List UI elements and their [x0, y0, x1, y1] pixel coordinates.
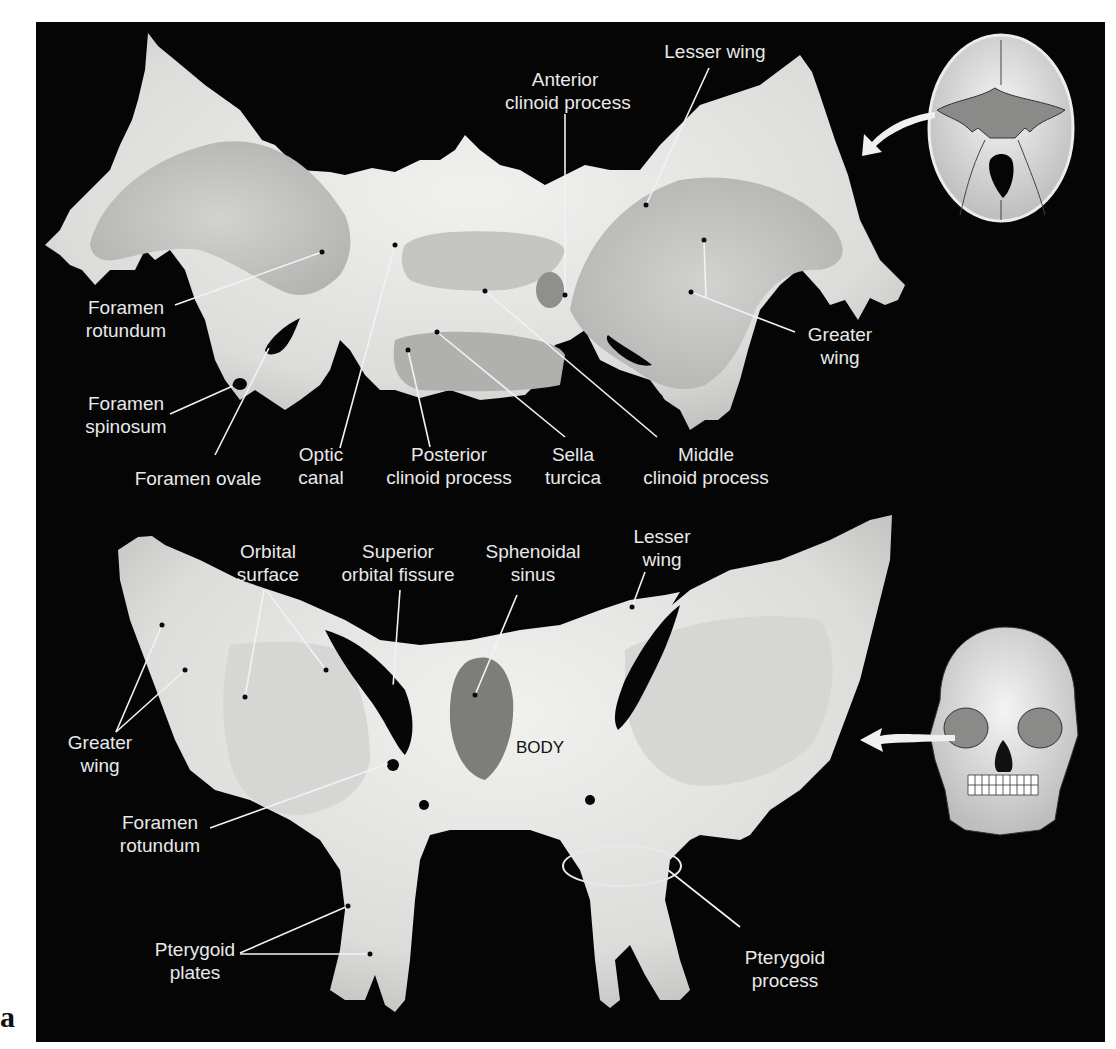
label-middle-clinoid-process: Middle clinoid process [626, 443, 786, 489]
middle-clinoid-shadow [536, 272, 564, 308]
leader-pterygoid-process [668, 870, 740, 927]
label-pterygoid-process: Pterygoid process [735, 946, 835, 992]
leader-pterygoid-plates-a [240, 906, 348, 953]
label-sella-turcica: Sella turcica [538, 443, 608, 489]
foramen-spinosum-right [651, 393, 663, 403]
label-pterygoid-plates: Pterygoid plates [150, 938, 240, 984]
label-sphenoidal-sinus: Sphenoidal sinus [478, 540, 588, 586]
leader-foramen-spinosum [170, 385, 235, 414]
inset-pointer-arrow-top [862, 112, 935, 156]
foramen-rotundum-right [585, 795, 595, 805]
label-foramen-rotundum-superior: Foramen rotundum [78, 296, 174, 342]
label-greater-wing-anterior: Greater wing [60, 731, 140, 777]
label-body: BODY [510, 736, 570, 759]
label-orbital-surface: Orbital surface [226, 540, 310, 586]
skull-anterior-inset [930, 627, 1078, 835]
pterygoid-canal-left [419, 800, 429, 810]
label-anterior-clinoid-process: Anterior clinoid process [505, 68, 625, 114]
label-superior-orbital-fissure: Superior orbital fissure [330, 540, 466, 586]
label-lesser-wing-anterior: Lesser wing [622, 525, 702, 571]
label-foramen-spinosum: Foramen spinosum [78, 392, 174, 438]
label-foramen-rotundum-anterior: Foramen rotundum [110, 811, 210, 857]
label-lesser-wing-superior: Lesser wing [660, 40, 770, 63]
label-greater-wing-superior: Greater wing [800, 323, 880, 369]
label-posterior-clinoid-process: Posterior clinoid process [360, 443, 538, 489]
sphenoid-illustration [0, 0, 1116, 1049]
label-foramen-ovale: Foramen ovale [128, 467, 268, 490]
sphenoid-superior-view [45, 33, 905, 430]
skull-teeth [968, 775, 1038, 795]
skull-orbit-right [1018, 708, 1062, 748]
skull-base-inset [929, 35, 1073, 221]
label-optic-canal: Optic canal [290, 443, 352, 489]
skull-orbit-left [944, 708, 988, 748]
